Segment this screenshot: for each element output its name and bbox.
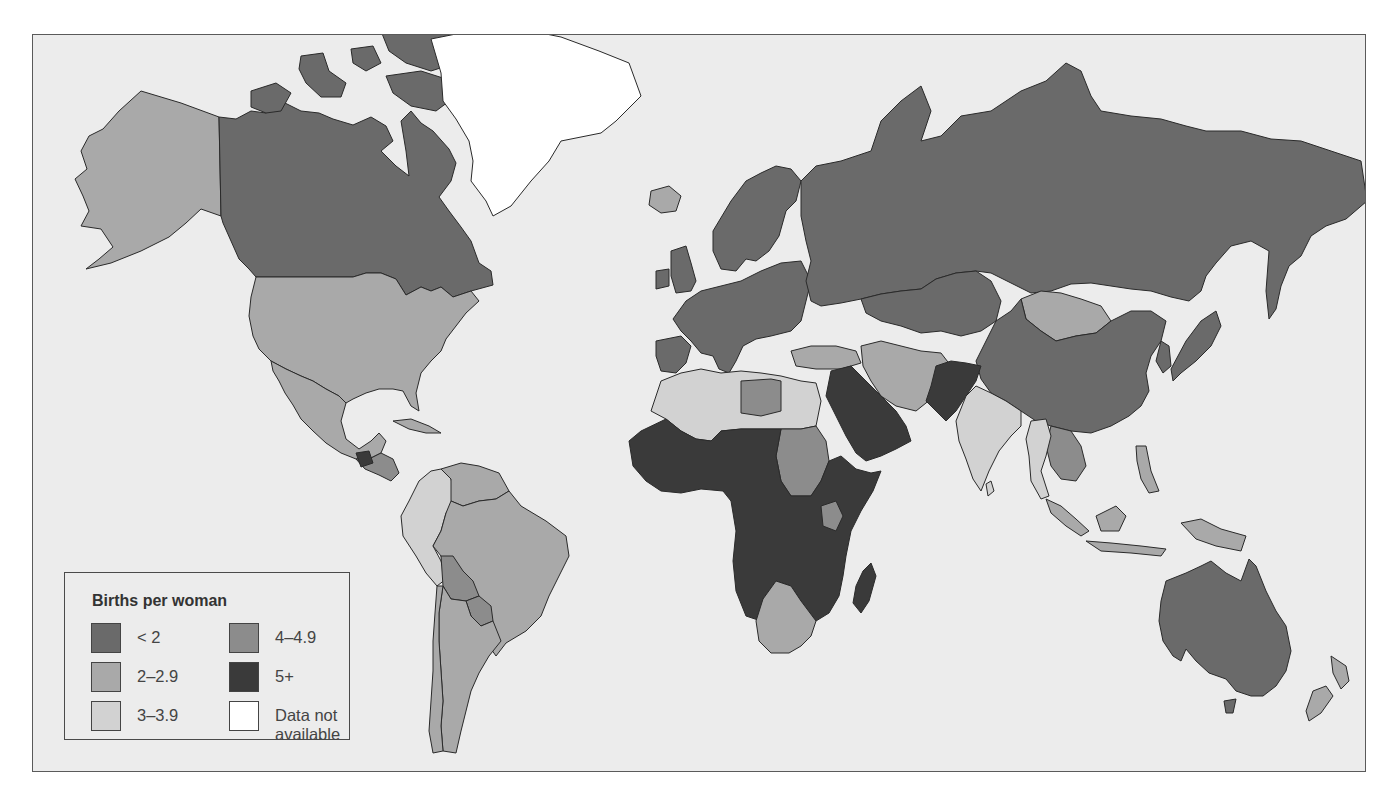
legend-item-4-4-9: 4–4.9 (229, 623, 316, 653)
region-libya (741, 379, 781, 416)
swatch-2-2-9 (91, 662, 121, 692)
region-sub-saharan-africa (629, 419, 881, 621)
legend-label-multiline: Data not available (275, 706, 340, 744)
region-indonesia (1046, 499, 1246, 556)
region-turkey-caucasus (791, 346, 861, 369)
swatch-data-not-available (229, 701, 259, 731)
legend-item-5-plus: 5+ (229, 662, 294, 692)
swatch-4-4-9 (229, 623, 259, 653)
legend-item-3-3-9: 3–3.9 (91, 701, 178, 731)
legend-label: 5+ (275, 667, 294, 686)
region-new-zealand (1306, 656, 1349, 721)
legend-label: < 2 (137, 628, 160, 647)
legend-item-under-2: < 2 (91, 623, 160, 653)
swatch-under-2 (91, 623, 121, 653)
region-iberia (656, 336, 691, 373)
legend-label: 3–3.9 (137, 706, 178, 725)
region-tasmania (1224, 699, 1236, 713)
region-madagascar (853, 563, 876, 613)
legend-title: Births per woman (92, 592, 227, 610)
legend-item-2-2-9: 2–2.9 (91, 662, 178, 692)
region-russia (801, 63, 1366, 319)
region-uk-ireland (656, 246, 696, 293)
legend-label: 2–2.9 (137, 667, 178, 686)
legend-label-line2: available (275, 725, 340, 744)
region-sri-lanka (986, 481, 994, 496)
region-iceland (649, 186, 681, 213)
swatch-5-plus (229, 662, 259, 692)
region-burma-thailand (1026, 419, 1051, 499)
region-canada (219, 101, 493, 297)
region-greenland (431, 35, 641, 216)
region-alaska (75, 91, 221, 269)
region-philippines (1136, 446, 1159, 493)
legend: Births per woman < 2 2–2.9 3–3.9 4–4.9 5… (64, 572, 350, 740)
region-southeast-asia-indochina (1046, 426, 1086, 481)
legend-item-data-not-available: Data not available (229, 701, 340, 744)
legend-label: 4–4.9 (275, 628, 316, 647)
region-scandinavia (713, 166, 801, 271)
region-cuba (393, 419, 441, 433)
swatch-3-3-9 (91, 701, 121, 731)
region-australia (1159, 559, 1291, 696)
legend-label-line1: Data not (275, 706, 340, 725)
